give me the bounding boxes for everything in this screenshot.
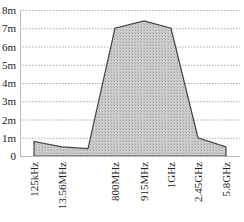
y-tick-label: 6m: [2, 41, 17, 53]
x-tick-label: 125kHz: [28, 162, 40, 197]
x-tick-label: 1GHz: [165, 162, 177, 188]
y-tick-label: 3m: [2, 95, 17, 107]
x-tick-label: 5.8GHz: [220, 162, 232, 197]
x-tick-label: 915MHz: [138, 162, 150, 201]
y-tick-label: 2m: [2, 114, 17, 126]
x-tick-label: 2.45GHz: [192, 162, 204, 202]
x-tick-label: 800MHz: [109, 162, 121, 201]
data-area: [34, 21, 226, 156]
y-tick-label: 8m: [2, 4, 17, 16]
area-chart: 01m2m3m4m5m6m7m8m 125kHz13.56MHz800MHz91…: [0, 0, 244, 222]
y-tick-label: 0: [11, 150, 17, 162]
y-tick-label: 5m: [2, 59, 17, 71]
x-tick-label: 13.56MHz: [56, 162, 68, 209]
y-tick-label: 7m: [2, 22, 17, 34]
y-axis-ticks: 01m2m3m4m5m6m7m8m: [2, 4, 17, 162]
y-tick-label: 4m: [2, 77, 17, 89]
y-tick-label: 1m: [2, 132, 17, 144]
x-axis-ticks: 125kHz13.56MHz800MHz915MHz1GHz2.45GHz5.8…: [28, 162, 232, 209]
